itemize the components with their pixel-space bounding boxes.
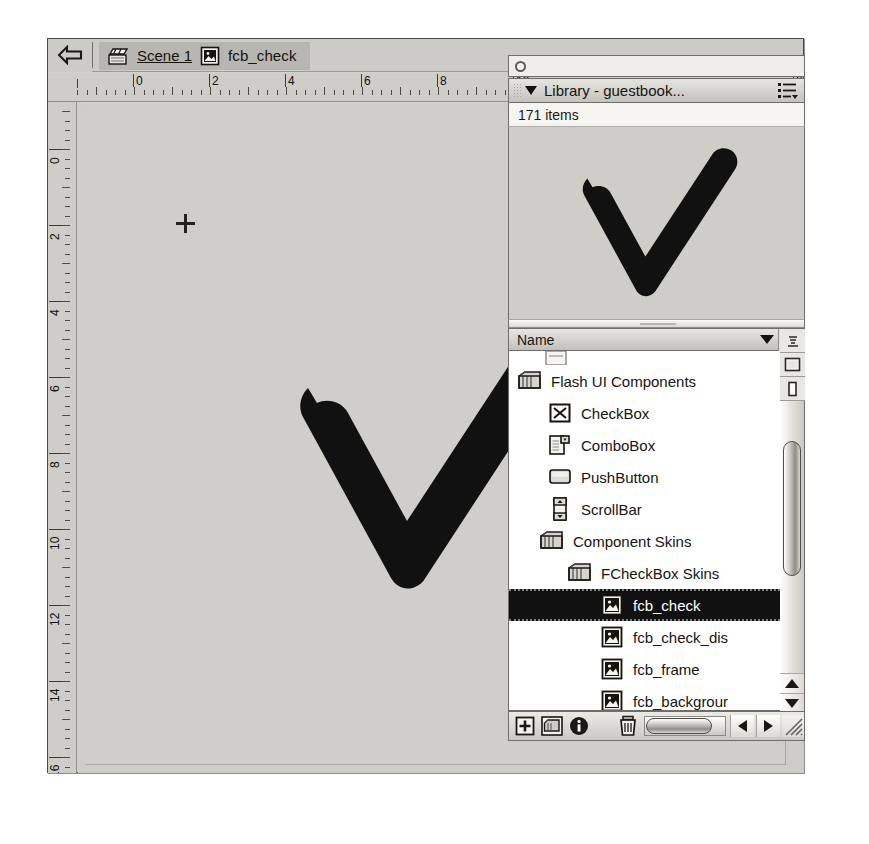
ruler-v-major (49, 681, 62, 682)
back-button[interactable] (48, 39, 92, 72)
list-item-label: CheckBox (581, 405, 649, 422)
panel-options-icon[interactable] (778, 82, 798, 99)
list-item[interactable] (509, 351, 780, 365)
ruler-v-major (49, 453, 62, 454)
ruler-v-major (49, 149, 62, 150)
list-item-checkbox[interactable]: CheckBox (509, 397, 780, 429)
preview-checkmark-shape (565, 131, 741, 307)
ruler-v-major (49, 605, 62, 606)
list-item-flash-ui-components[interactable]: Flash UI Components (509, 365, 780, 397)
horizontal-scrollbar[interactable] (644, 716, 726, 736)
list-item-component-skins[interactable]: Component Skins (509, 525, 780, 557)
list-item-label: fcb_check_dis (633, 629, 728, 646)
list-item-label: Component Skins (573, 533, 691, 550)
ruler-h-label-0: 0 (133, 74, 143, 88)
ruler-h-label-2: 2 (209, 74, 219, 88)
folder-icon (567, 561, 592, 585)
registration-crosshair-icon (176, 214, 195, 233)
preview-splitter[interactable] (508, 319, 805, 328)
list-item-label: fcb_backgrour (633, 693, 728, 710)
list-item-label: FCheckBox Skins (601, 565, 719, 582)
library-tree-list[interactable]: Flash UI Components CheckBox (508, 351, 780, 711)
library-items-count: 171 items (508, 103, 805, 127)
ruler-v-label-2: 2 (48, 233, 62, 240)
ruler-v-label-8: 8 (48, 461, 62, 468)
ruler-v-label-0: 0 (48, 157, 62, 164)
scroll-up-arrow-icon[interactable] (780, 673, 804, 693)
ruler-h-label-4: 4 (285, 74, 295, 88)
list-item-label: ComboBox (581, 437, 655, 454)
list-item-label: ScrollBar (581, 501, 642, 518)
library-panel: Library - guestbook... 171 items Name (508, 55, 805, 755)
breadcrumb-symbol-label: fcb_check (228, 47, 296, 64)
library-panel-title: Library - guestbook... (544, 82, 778, 99)
list-item-fcheckbox-skins[interactable]: FCheckBox Skins (509, 557, 780, 589)
trash-delete-icon[interactable] (615, 714, 640, 738)
checkbox-component-icon (547, 401, 572, 425)
movie-clip-symbol-icon (599, 689, 624, 711)
ruler-v-major (49, 757, 62, 758)
properties-info-icon[interactable] (566, 714, 591, 738)
ruler-v-label-6: 6 (48, 385, 62, 392)
clipped-item-icon (543, 351, 568, 365)
wide-state-icon[interactable] (780, 353, 805, 377)
list-item-scrollbar[interactable]: ScrollBar (509, 493, 780, 525)
list-item-fcb-background[interactable]: fcb_backgrour (509, 685, 780, 711)
breadcrumb: Scene 1 fcb_check (99, 41, 310, 70)
close-circle-icon[interactable] (515, 61, 526, 72)
scroll-right-arrow-icon[interactable] (756, 715, 780, 737)
movie-clip-symbol-icon (200, 46, 220, 66)
breadcrumb-scene-link[interactable]: Scene 1 (137, 47, 192, 64)
panel-grip-icon (513, 83, 523, 98)
disclosure-triangle-icon[interactable] (525, 86, 537, 95)
library-window-titlebar[interactable] (508, 55, 805, 77)
scrollbar-component-icon (547, 497, 572, 521)
vertical-scrollbar[interactable] (780, 401, 804, 673)
folder-icon (517, 369, 542, 393)
resize-grip-icon[interactable] (782, 715, 804, 737)
vertical-ruler[interactable]: 0 2 4 6 8 10 12 14 16 (48, 102, 77, 773)
library-scroll-column (780, 328, 805, 711)
ruler-v-major (49, 225, 62, 226)
ruler-v-label-10: 10 (48, 537, 62, 550)
ruler-h-label-6: 6 (361, 74, 371, 88)
ruler-v-label-14: 14 (48, 689, 62, 702)
list-item-fcb-check[interactable]: fcb_check (509, 589, 780, 621)
list-item-label: fcb_check (633, 597, 701, 614)
movie-clip-symbol-icon (599, 657, 624, 681)
library-panel-titlebar[interactable]: Library - guestbook... (508, 78, 805, 103)
folder-icon (539, 529, 564, 553)
movie-clip-symbol-icon (599, 593, 624, 617)
ruler-v-major (49, 529, 62, 530)
back-arrow-icon (57, 45, 83, 65)
list-item-fcb-frame[interactable]: fcb_frame (509, 653, 780, 685)
list-item-label: fcb_frame (633, 661, 700, 678)
library-column-header[interactable]: Name (508, 328, 805, 351)
list-item-pushbutton[interactable]: PushButton (509, 461, 780, 493)
column-header-name: Name (517, 332, 760, 348)
panel-resize-icon[interactable] (780, 329, 805, 353)
scroll-left-arrow-icon[interactable] (730, 715, 754, 737)
clapperboard-icon (107, 46, 129, 66)
ruler-v-major (49, 301, 62, 302)
ruler-h-origin-mark (77, 79, 78, 88)
library-preview-pane[interactable] (508, 127, 805, 319)
ruler-v-label-16: 16 (48, 765, 62, 773)
narrow-state-icon[interactable] (780, 377, 805, 401)
sort-triangle-icon[interactable] (760, 335, 774, 344)
edit-bar-divider (92, 42, 93, 68)
scroll-down-arrow-icon[interactable] (780, 693, 804, 713)
vertical-scrollbar-thumb[interactable] (783, 441, 801, 576)
library-bottom-toolbar (508, 711, 805, 741)
new-symbol-icon[interactable] (512, 714, 537, 738)
list-item-combobox[interactable]: ComboBox (509, 429, 780, 461)
ruler-v-major (49, 377, 62, 378)
list-item-fcb-check-dis[interactable]: fcb_check_dis (509, 621, 780, 653)
ruler-v-label-12: 12 (48, 613, 62, 626)
new-folder-icon[interactable] (539, 714, 564, 738)
combobox-component-icon (547, 433, 572, 457)
list-item-label: PushButton (581, 469, 659, 486)
horizontal-scrollbar-thumb[interactable] (646, 718, 712, 734)
ruler-h-label-8: 8 (437, 74, 447, 88)
movie-clip-symbol-icon (599, 625, 624, 649)
